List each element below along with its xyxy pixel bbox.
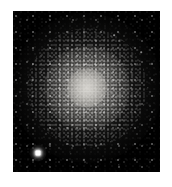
field-star <box>154 19 155 20</box>
globular-cluster-core <box>67 69 107 108</box>
field-star <box>131 24 132 25</box>
astronomical-image-panel <box>13 11 160 172</box>
field-star <box>149 167 150 168</box>
star-disc <box>36 151 41 156</box>
field-star <box>56 162 57 163</box>
figure-root <box>0 0 172 187</box>
field-star <box>42 22 43 23</box>
detector-bleed-row <box>13 91 160 92</box>
field-star <box>143 145 144 146</box>
